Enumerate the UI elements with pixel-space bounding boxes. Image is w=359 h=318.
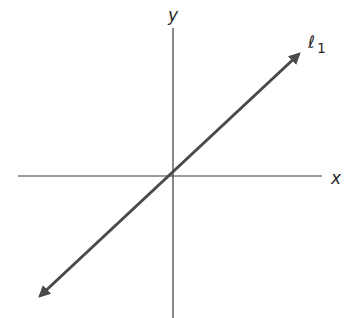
line-label-subscript: 1 [317,40,326,56]
coordinate-plane: y x ℓ1 [0,0,359,318]
line-label-main: ℓ [307,32,315,52]
y-axis-label: y [167,5,179,25]
line-l1 [40,54,299,296]
line-label: ℓ1 [307,32,326,56]
x-axis-label: x [330,168,342,188]
